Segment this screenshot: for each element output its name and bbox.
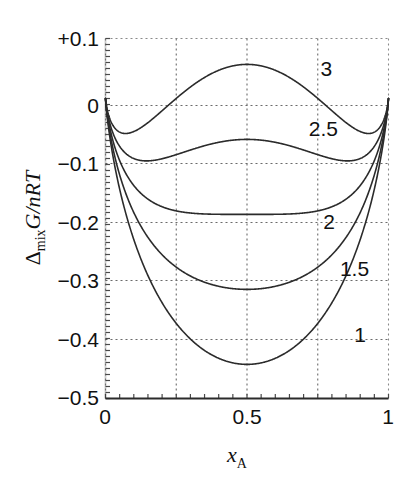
y-tick-label-1: 0 <box>87 94 99 117</box>
y-tick-label-4: −0.3 <box>58 269 99 292</box>
x-axis-title: xA <box>226 442 248 471</box>
svg-text:ΔmixG/nRT: ΔmixG/nRT <box>20 169 48 265</box>
y-axis-title-delta: Δ <box>20 251 45 265</box>
y-tick-label-2: −0.1 <box>58 152 99 175</box>
x-tick-label-2: 1 <box>382 405 394 428</box>
y-tick-label-5: −0.4 <box>58 328 100 351</box>
y-tick-label-3: −0.2 <box>58 211 99 234</box>
x-axis-title-sub: A <box>237 456 248 471</box>
y-tick-label-0: +0.1 <box>58 27 99 50</box>
chart-figure: 11.522.53 +0.1 0 −0.1 −0.2 −0.3 −0.4 −0.… <box>0 0 407 485</box>
y-axis-title-delta-sub: mix <box>33 229 48 251</box>
y-tick-label-6: −0.5 <box>58 386 99 409</box>
y-axis-title-main: G/nRT <box>20 169 45 229</box>
regular-solution-gibbs-mixing-chart: 11.522.53 +0.1 0 −0.1 −0.2 −0.3 −0.4 −0.… <box>0 0 407 485</box>
x-tick-label-0: 0 <box>99 405 111 428</box>
y-tick-labels: +0.1 0 −0.1 −0.2 −0.3 −0.4 −0.5 <box>58 27 100 409</box>
x-tick-labels: 0 0.5 1 <box>99 405 394 428</box>
y-axis-title: ΔmixG/nRT <box>20 169 48 265</box>
curve-label-xi-3: 3 <box>320 57 332 80</box>
curve-label-xi-2.5: 2.5 <box>309 117 338 140</box>
curve-label-xi-1: 1 <box>354 323 366 346</box>
svg-text:xA: xA <box>226 442 248 471</box>
curve-xi-2 <box>106 99 389 215</box>
x-axis-title-main: x <box>226 442 237 467</box>
curve-label-xi-1.5: 1.5 <box>340 257 369 280</box>
curve-label-xi-2: 2 <box>323 210 335 233</box>
x-tick-label-1: 0.5 <box>232 405 261 428</box>
